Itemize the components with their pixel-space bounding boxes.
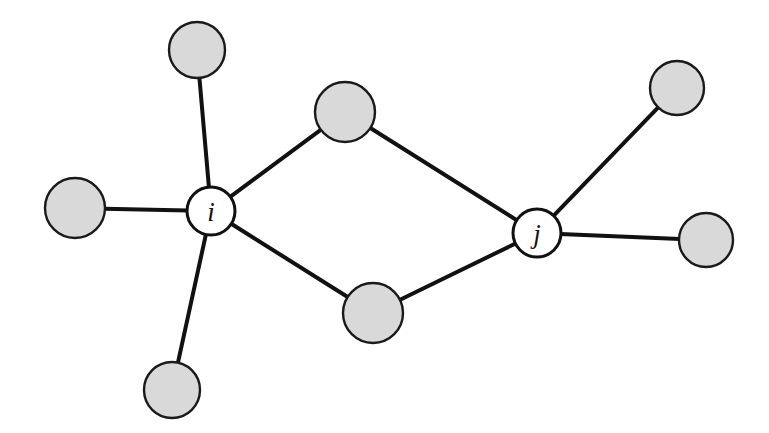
neighbor-circle-n1 xyxy=(169,22,225,78)
neighbor-node-n4[interactable] xyxy=(315,82,375,142)
graph-edge-j-n6 xyxy=(553,107,659,217)
neighbor-node-n2[interactable] xyxy=(45,178,105,238)
hub-label-i: i xyxy=(207,197,215,227)
graph-edge-j-n4 xyxy=(370,127,518,220)
neighbor-node-n6[interactable] xyxy=(650,61,704,115)
graph-edge-i-n1 xyxy=(199,77,209,188)
graph-edge-i-n3 xyxy=(178,233,206,363)
hub-node-i[interactable]: i xyxy=(187,187,235,235)
neighbor-node-n7[interactable] xyxy=(679,213,733,267)
graph-edge-i-n4 xyxy=(229,129,321,197)
graph-edge-i-n5 xyxy=(230,223,348,297)
neighbor-node-n1[interactable] xyxy=(169,22,225,78)
neighbor-circle-n3 xyxy=(144,362,200,418)
neighbor-circle-n7 xyxy=(679,213,733,267)
neighbor-circle-n5 xyxy=(343,283,403,343)
node-layer: ij xyxy=(45,22,733,418)
neighbor-node-n3[interactable] xyxy=(144,362,200,418)
network-diagram-canvas: ij xyxy=(0,0,769,433)
graph-edge-i-n2 xyxy=(104,209,188,211)
hub-node-j[interactable]: j xyxy=(513,209,561,257)
neighbor-circle-n6 xyxy=(650,61,704,115)
graph-svg: ij xyxy=(0,0,769,433)
graph-edge-j-n5 xyxy=(399,243,516,300)
neighbor-circle-n2 xyxy=(45,178,105,238)
neighbor-node-n5[interactable] xyxy=(343,283,403,343)
graph-edge-j-n7 xyxy=(560,234,680,239)
neighbor-circle-n4 xyxy=(315,82,375,142)
